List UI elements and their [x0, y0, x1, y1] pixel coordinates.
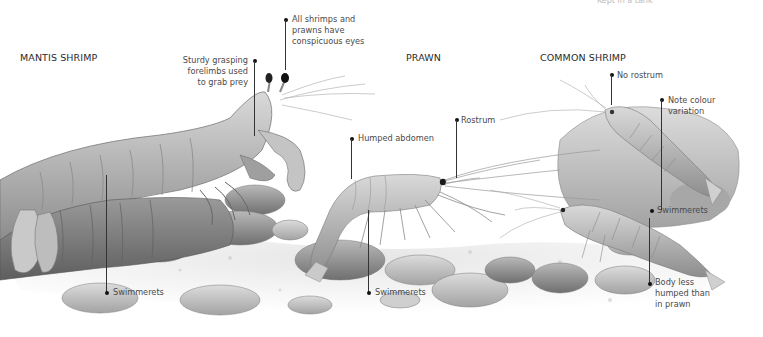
leader-line: [649, 218, 650, 283]
leader-line: [106, 175, 107, 293]
annotation-common-shrimp-swimmerets: Swimmerets: [657, 205, 708, 216]
leader-dot: [648, 282, 652, 286]
annotation-prawn-swimmerets: Swimmerets: [375, 287, 426, 298]
heading-common-shrimp: COMMON SHRIMP: [540, 52, 626, 63]
leader-line: [254, 61, 255, 136]
leader-line: [351, 139, 352, 179]
annotation-rostrum: Rostrum: [461, 115, 495, 126]
heading-mantis-shrimp: MANTIS SHRIMP: [20, 52, 97, 63]
leader-line: [368, 210, 369, 292]
leader-dot: [105, 291, 109, 295]
annotation-humped-abdomen: Humped abdomen: [358, 133, 434, 144]
leader-line: [285, 20, 286, 70]
leader-line: [611, 75, 612, 105]
annotation-mantis-swimmerets: Swimmerets: [113, 287, 164, 298]
annotation-grasping-forelimbs: Sturdy grasping forelimbs used to grab p…: [180, 55, 248, 88]
annotation-body-less-humped: Body less humped than in prawn: [655, 277, 710, 310]
annotation-conspicuous-eyes: All shrimps and prawns have conspicuous …: [292, 14, 364, 47]
leader-line: [661, 100, 662, 210]
annotation-colour-variation: Note colour variation: [668, 95, 715, 117]
leader-dot: [650, 209, 654, 213]
leader-dot: [367, 291, 371, 295]
clipped-caption: Kept in a tank: [597, 0, 653, 5]
annotation-no-rostrum: No rostrum: [617, 70, 663, 81]
illustration-figure: Kept in a tank MANTIS SHRIMP PRAWN COMMO…: [0, 0, 763, 337]
leader-line: [456, 120, 457, 178]
heading-prawn: PRAWN: [406, 52, 441, 63]
